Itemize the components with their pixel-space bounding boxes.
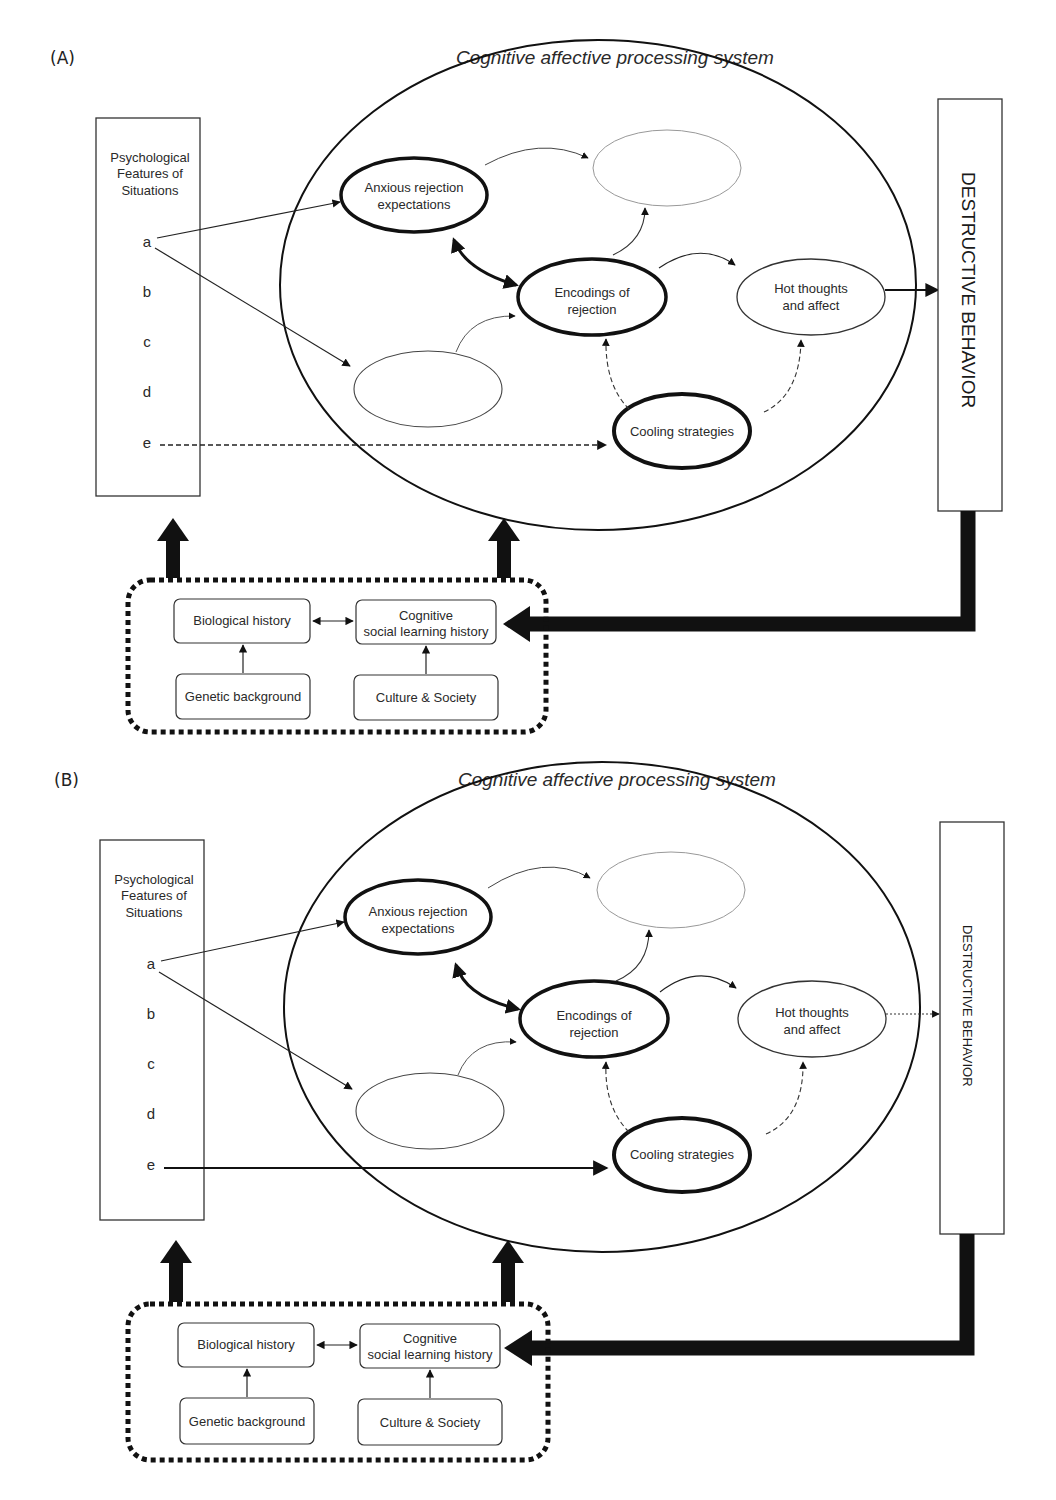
biological-history-label: Biological history	[193, 613, 291, 628]
link-empty-to-encodings	[456, 316, 515, 352]
link-a-to-empty	[159, 972, 352, 1089]
link-encodings-to-hot	[660, 976, 736, 992]
link-a-to-anxious	[157, 202, 340, 238]
feature-e: e	[143, 434, 151, 451]
node-empty-top	[593, 130, 741, 206]
node-hot-thoughts	[737, 259, 885, 335]
node-anxious-text1: Anxious rejection	[369, 904, 468, 919]
up-arrowhead-situations	[157, 518, 189, 541]
link-cooling-to-encodings	[606, 339, 629, 409]
feature-c: c	[147, 1055, 155, 1072]
destructive-behavior-label: DESTRUCTIVE BEHAVIOR	[958, 172, 979, 408]
node-encodings-text2: rejection	[569, 1025, 618, 1040]
node-hot-text2: and affect	[783, 298, 840, 313]
node-empty-bottom	[354, 351, 502, 427]
diagram-canvas: (A) Cognitive affective processing syste…	[0, 0, 1056, 1500]
link-a-to-empty	[155, 248, 350, 366]
feature-d: d	[147, 1105, 155, 1122]
node-encodings-text1: Encodings of	[554, 285, 630, 300]
link-anxious-encodings	[456, 965, 518, 1009]
cognitive-history-label1: Cognitive	[399, 608, 453, 623]
link-cooling-to-hot	[764, 340, 801, 412]
biological-history-label: Biological history	[197, 1337, 295, 1352]
link-empty-to-encodings	[458, 1042, 516, 1075]
feedback-arrow	[530, 511, 968, 624]
node-encodings-text1: Encodings of	[556, 1008, 632, 1023]
link-anxious-to-empty-top	[485, 148, 588, 165]
link-anxious-encodings	[454, 240, 516, 285]
up-arrow-to-situations	[169, 1262, 183, 1302]
panel-label: (A)	[50, 48, 75, 68]
feedback-arrowhead	[503, 606, 530, 642]
link-encodings-to-empty-top	[616, 930, 649, 981]
feature-a: a	[147, 955, 156, 972]
cognitive-history-label2: social learning history	[367, 1347, 493, 1362]
node-anxious-text2: expectations	[378, 197, 451, 212]
genetic-background-label: Genetic background	[189, 1414, 305, 1429]
cognitive-history-label2: social learning history	[363, 624, 489, 639]
up-arrow-to-system	[501, 1262, 515, 1302]
node-cooling-text: Cooling strategies	[630, 1147, 735, 1162]
link-encodings-to-hot	[659, 253, 735, 268]
node-hot-text2: and affect	[784, 1022, 841, 1037]
culture-society-label: Culture & Society	[376, 690, 477, 705]
link-encodings-to-empty-top	[613, 208, 645, 255]
situations-title-line2: Features of	[117, 166, 183, 181]
node-empty-top	[597, 852, 745, 928]
node-hot-text1: Hot thoughts	[775, 1005, 849, 1020]
node-anxious-text2: expectations	[382, 921, 455, 936]
panel-b: (B) Cognitive affective processing syste…	[54, 762, 1004, 1460]
up-arrow-to-system	[497, 540, 511, 578]
feature-a: a	[143, 233, 152, 250]
destructive-behavior-label: DESTRUCTIVE BEHAVIOR	[960, 925, 975, 1087]
feedback-arrowhead	[504, 1330, 532, 1366]
situations-title-line3: Situations	[125, 905, 183, 920]
node-anxious-text1: Anxious rejection	[365, 180, 464, 195]
situations-title-line1: Psychological	[110, 150, 190, 165]
feature-c: c	[143, 333, 151, 350]
link-cooling-to-hot	[766, 1062, 803, 1134]
feature-b: b	[143, 283, 151, 300]
link-anxious-to-empty-top	[488, 867, 590, 888]
panel-label: (B)	[54, 770, 79, 790]
feature-e: e	[147, 1156, 155, 1173]
node-anxious-rejection	[341, 158, 487, 232]
link-cooling-to-encodings	[606, 1062, 629, 1132]
node-cooling-text: Cooling strategies	[630, 424, 735, 439]
situations-title-line1: Psychological	[114, 872, 194, 887]
culture-society-label: Culture & Society	[380, 1415, 481, 1430]
link-a-to-anxious	[161, 922, 344, 961]
node-hot-text1: Hot thoughts	[774, 281, 848, 296]
up-arrow-to-situations	[166, 540, 180, 578]
genetic-background-label: Genetic background	[185, 689, 301, 704]
feature-b: b	[147, 1005, 155, 1022]
cognitive-history-label1: Cognitive	[403, 1331, 457, 1346]
node-encodings-text2: rejection	[567, 302, 616, 317]
situations-title-line2: Features of	[121, 888, 187, 903]
feature-d: d	[143, 383, 151, 400]
panel-a: (A) Cognitive affective processing syste…	[50, 40, 1002, 732]
situations-title-line3: Situations	[121, 183, 179, 198]
up-arrowhead-situations	[160, 1240, 192, 1263]
system-title: Cognitive affective processing system	[458, 769, 776, 790]
node-empty-bottom	[356, 1073, 504, 1149]
